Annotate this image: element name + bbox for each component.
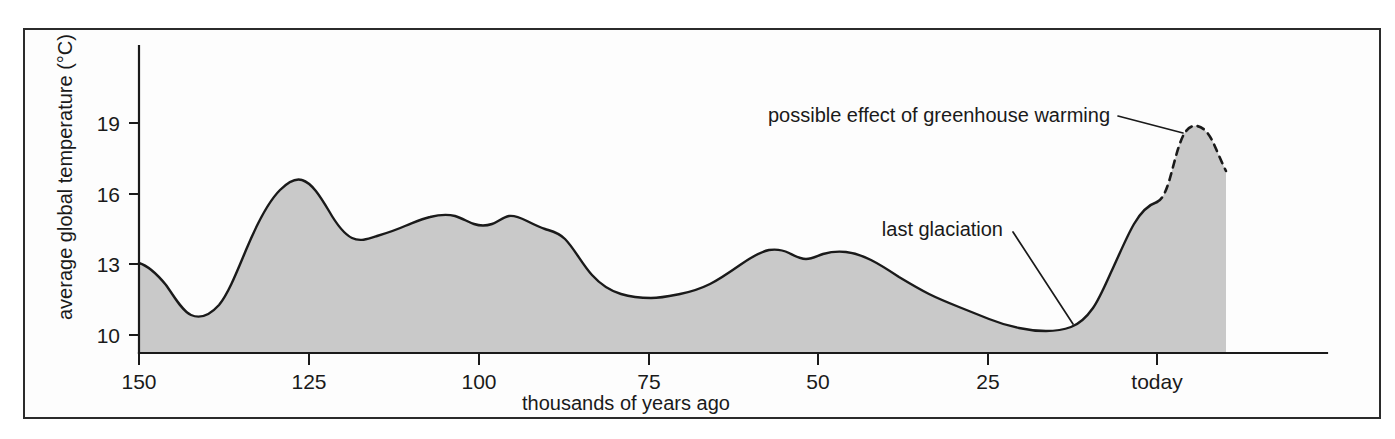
x-tick-label-75: 75 xyxy=(637,370,660,393)
annotation-greenhouse-warming: possible effect of greenhouse warming xyxy=(768,104,1110,126)
annotation-last-glaciation: last glaciation xyxy=(882,218,1003,240)
projected-area-fill xyxy=(1157,126,1226,353)
y-tick-label-10: 10 xyxy=(97,324,120,347)
y-tick-label-19: 19 xyxy=(97,112,120,135)
observed-area-fill xyxy=(139,179,1157,353)
y-axis-title: average global temperature (°C) xyxy=(54,34,76,320)
figure-container: 10 13 16 19 150 125 100 75 50 25 today a… xyxy=(0,0,1395,439)
x-tick-label-100: 100 xyxy=(461,370,496,393)
leader-line-last-glaciation xyxy=(1013,232,1073,324)
y-tick-label-16: 16 xyxy=(97,183,120,206)
y-tick-label-13: 13 xyxy=(97,253,120,276)
x-tick-label-50: 50 xyxy=(806,370,829,393)
x-axis-title: thousands of years ago xyxy=(522,392,730,414)
x-tick-label-150: 150 xyxy=(121,370,156,393)
x-tick-label-25: 25 xyxy=(976,370,999,393)
temperature-chart: 10 13 16 19 150 125 100 75 50 25 today a… xyxy=(0,0,1395,439)
leader-line-greenhouse-warming xyxy=(1118,116,1183,133)
x-tick-label-today: today xyxy=(1131,370,1183,393)
x-tick-label-125: 125 xyxy=(291,370,326,393)
